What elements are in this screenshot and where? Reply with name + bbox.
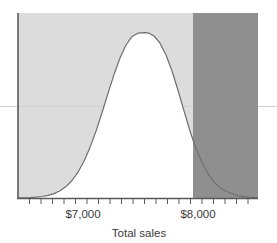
normal-distribution-chart: $7,000 $8,000 Total sales: [0, 0, 277, 243]
x-tick-label-8000: $8,000: [180, 208, 215, 220]
x-axis-ticks: [30, 199, 249, 204]
chart-canvas: $7,000 $8,000 Total sales: [0, 0, 277, 243]
x-tick-label-7000: $7,000: [65, 208, 100, 220]
x-axis-title: Total sales: [112, 227, 167, 239]
